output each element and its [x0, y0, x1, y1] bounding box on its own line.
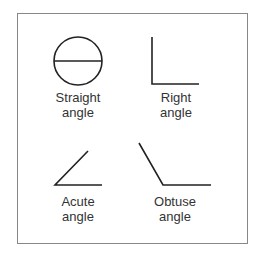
right-angle-label: Right angle: [136, 90, 216, 120]
straight-angle-shape: [54, 37, 102, 85]
label-line: Acute: [38, 194, 118, 209]
right-angle-shape: [152, 37, 199, 84]
acute-angle-label: Acute angle: [38, 194, 118, 224]
label-line: angle: [136, 105, 216, 120]
obtuse-angle-shape: [139, 143, 211, 185]
obtuse-angle-label: Obtuse angle: [135, 194, 215, 224]
label-line: angle: [38, 209, 118, 224]
label-line: Right: [136, 90, 216, 105]
straight-angle-label: Straight angle: [38, 90, 118, 120]
label-line: angle: [38, 105, 118, 120]
label-line: angle: [135, 209, 215, 224]
label-line: Obtuse: [135, 194, 215, 209]
acute-angle-shape: [55, 151, 102, 185]
label-line: Straight: [38, 90, 118, 105]
